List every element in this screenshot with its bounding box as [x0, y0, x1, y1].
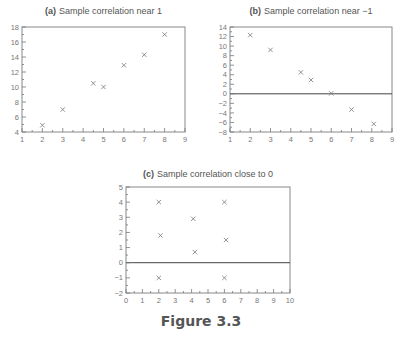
- x-tick-label: 5: [101, 135, 105, 144]
- x-tick-label: 8: [370, 135, 374, 144]
- x-tick-label: 1: [20, 135, 24, 144]
- y-tick-label: 8: [223, 51, 227, 60]
- chart-title-text: Sample correlation near −1: [264, 6, 372, 16]
- data-point-x-marker: [142, 53, 146, 57]
- x-tick-label: 3: [173, 296, 177, 305]
- chart-title-b: (b)Sample correlation near −1: [250, 6, 373, 16]
- y-tick-label: 14: [219, 23, 227, 32]
- x-tick-label: 6: [222, 296, 226, 305]
- data-point-x-marker: [268, 48, 272, 52]
- data-point-x-marker: [372, 122, 376, 126]
- y-tick-label: 4: [223, 70, 227, 79]
- x-tick-label: 7: [239, 296, 243, 305]
- x-tick-label: 2: [40, 135, 44, 144]
- chart-title-prefix: (c): [143, 169, 154, 179]
- y-tick-label: 1: [119, 243, 123, 252]
- y-tick-label: −2: [218, 99, 227, 108]
- y-tick-label: 5: [119, 183, 123, 192]
- y-tick-label: 12: [219, 32, 227, 41]
- chart-title-text: Sample correlation close to 0: [157, 169, 273, 179]
- y-tick-label: 18: [11, 23, 19, 32]
- data-point-x-marker: [299, 70, 303, 74]
- y-tick-label: 16: [11, 38, 19, 47]
- chart-title-prefix: (a): [45, 6, 56, 16]
- x-tick-label: 1: [228, 135, 232, 144]
- x-tick-label: 7: [349, 135, 353, 144]
- chart-title-prefix: (b): [250, 6, 262, 16]
- data-point-x-marker: [122, 63, 126, 67]
- data-point-x-marker: [157, 276, 161, 280]
- x-tick-label: 9: [390, 135, 394, 144]
- y-tick-label: 10: [219, 42, 227, 51]
- y-tick-label: 4: [119, 198, 123, 207]
- data-point-x-marker: [248, 33, 252, 37]
- chart-title-text: Sample correlation near 1: [59, 6, 162, 16]
- scatter-plot-c: (c)Sample correlation close to 001234567…: [114, 169, 294, 305]
- y-tick-label: 6: [223, 61, 227, 70]
- y-tick-label: 2: [119, 228, 123, 237]
- scatter-plot-b: (b)Sample correlation near −1123456789−8…: [218, 6, 394, 144]
- x-tick-label: 2: [157, 296, 161, 305]
- chart-title-a: (a)Sample correlation near 1: [45, 6, 162, 16]
- x-tick-label: 3: [61, 135, 65, 144]
- x-tick-label: 8: [255, 296, 259, 305]
- y-tick-label: 10: [11, 83, 19, 92]
- x-tick-label: 9: [272, 296, 276, 305]
- y-tick-label: −8: [218, 128, 227, 137]
- y-tick-label: 3: [119, 213, 123, 222]
- chart-title-c: (c)Sample correlation close to 0: [143, 169, 273, 179]
- scatter-plot-a: (a)Sample correlation near 1123456789468…: [11, 6, 187, 144]
- x-tick-label: 5: [206, 296, 210, 305]
- data-point-x-marker: [222, 276, 226, 280]
- data-point-x-marker: [309, 78, 313, 82]
- y-tick-label: −4: [218, 109, 227, 118]
- data-point-x-marker: [91, 81, 95, 85]
- y-tick-label: 14: [11, 53, 19, 62]
- x-tick-label: 2: [248, 135, 252, 144]
- y-tick-label: 2: [223, 80, 227, 89]
- data-point-x-marker: [222, 200, 226, 204]
- data-point-x-marker: [158, 233, 162, 237]
- y-tick-label: 8: [15, 98, 19, 107]
- figure-canvas: (a)Sample correlation near 1123456789468…: [0, 0, 402, 339]
- x-tick-label: 1: [140, 296, 144, 305]
- y-tick-label: 0: [119, 258, 123, 267]
- plot-frame: [126, 187, 290, 293]
- data-point-x-marker: [193, 250, 197, 254]
- y-tick-label: 12: [11, 68, 19, 77]
- data-point-x-marker: [61, 107, 65, 111]
- data-point-x-marker: [162, 32, 166, 36]
- y-tick-label: 6: [15, 113, 19, 122]
- x-tick-label: 4: [81, 135, 85, 144]
- data-point-x-marker: [349, 107, 353, 111]
- y-tick-label: 0: [223, 89, 227, 98]
- data-point-x-marker: [191, 217, 195, 221]
- data-point-x-marker: [101, 85, 105, 89]
- y-tick-label: −6: [218, 118, 227, 127]
- x-tick-label: 8: [163, 135, 167, 144]
- x-tick-label: 4: [190, 296, 194, 305]
- data-point-x-marker: [40, 123, 44, 127]
- x-tick-label: 3: [268, 135, 272, 144]
- figure-caption: Figure 3.3: [0, 313, 402, 329]
- y-tick-label: 4: [15, 128, 19, 137]
- data-point-x-marker: [224, 238, 228, 242]
- y-tick-label: −2: [114, 289, 123, 298]
- plot-frame: [22, 27, 185, 132]
- x-tick-label: 4: [289, 135, 293, 144]
- x-tick-label: 6: [122, 135, 126, 144]
- x-tick-label: 7: [142, 135, 146, 144]
- x-tick-label: 5: [309, 135, 313, 144]
- x-tick-label: 9: [183, 135, 187, 144]
- data-point-x-marker: [157, 200, 161, 204]
- x-tick-label: 6: [329, 135, 333, 144]
- x-tick-label: 0: [124, 296, 128, 305]
- y-tick-label: −1: [114, 273, 123, 282]
- x-tick-label: 10: [286, 296, 294, 305]
